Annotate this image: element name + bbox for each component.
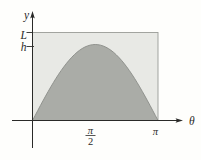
- x-axis-label: θ: [189, 115, 195, 127]
- y-axis-label: y: [23, 9, 30, 22]
- curve-peak-label: h: [21, 41, 27, 53]
- half-pi-tick-numerator: π: [88, 125, 94, 136]
- half-pi-tick-denominator: 2: [88, 136, 93, 147]
- math-figure: y L h θ π 2 π: [0, 0, 201, 160]
- figure-svg: y L h θ π 2 π: [0, 0, 201, 160]
- pi-tick-label: π: [153, 126, 159, 137]
- rect-height-label: L: [20, 29, 27, 41]
